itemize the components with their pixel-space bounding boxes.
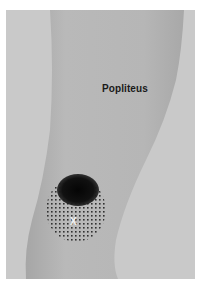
leg-shape [26,10,184,279]
illustration-frame: Popliteus X [6,10,195,279]
trigger-point-x-icon: X [70,217,77,227]
pain-core-area [57,174,99,206]
leg-illustration [6,10,195,279]
muscle-label: Popliteus [102,83,148,94]
